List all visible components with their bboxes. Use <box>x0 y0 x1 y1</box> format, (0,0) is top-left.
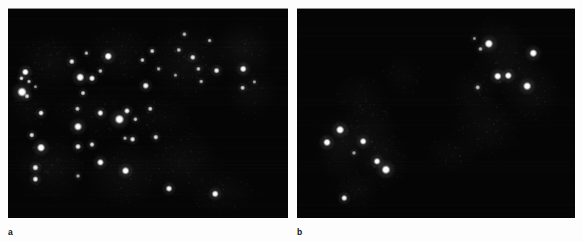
panel-label-b: b <box>297 228 302 237</box>
micrograph-panel-a <box>8 8 288 218</box>
panel-label-a: a <box>8 228 13 237</box>
figure-root: a b <box>0 0 583 242</box>
micrograph-panel-b <box>297 8 575 218</box>
micrograph-canvas-b <box>297 8 575 218</box>
micrograph-canvas-a <box>8 8 288 218</box>
